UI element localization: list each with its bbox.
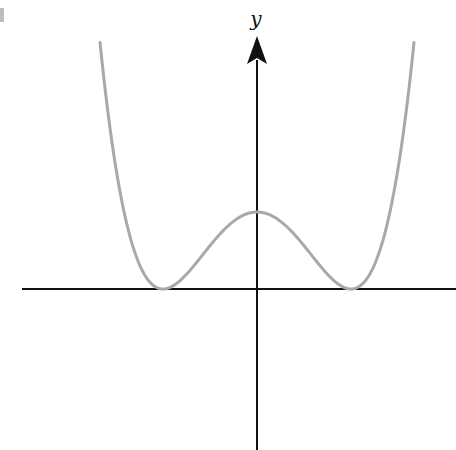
chart-canvas: y [0, 0, 456, 450]
y-axis-label: y [249, 7, 262, 31]
y-axis-arrow-icon [247, 36, 267, 64]
chart-svg: y [0, 0, 456, 450]
